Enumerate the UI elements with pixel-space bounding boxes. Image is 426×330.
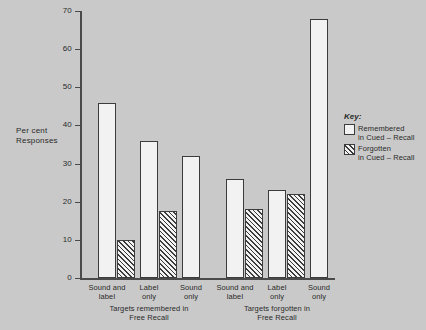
bar-g1-5-remembered [182,156,200,278]
y-tick-label-50: 50 [46,82,72,91]
plot-area [80,11,335,278]
legend-item-forgotten: Forgotten in Cued – Recall [344,144,426,162]
chart-canvas: Per cent Responses 706050403020100 Sound… [0,0,426,330]
legend-item-remembered: Remembered in Cued – Recall [344,124,426,142]
category-label: Sound and label [83,283,131,301]
y-tick-label-20: 20 [46,197,72,206]
y-tick-label-0: 0 [46,273,72,282]
bar-g2-1-remembered [226,179,244,278]
legend-swatch-remembered-icon [344,124,355,135]
legend-label-forgotten: Forgotten in Cued – Recall [358,144,415,162]
category-label: Sound only [167,283,215,301]
group-caption: Targets remembered in Free Recall [92,304,206,322]
y-tick-label-70: 70 [46,6,72,15]
legend-label-remembered: Remembered in Cued – Recall [358,124,415,142]
y-tick-label-10: 10 [46,235,72,244]
bar-g2-4-forgotten [287,194,305,278]
category-label: Sound and label [211,283,259,301]
legend-swatch-forgotten-icon [344,144,355,155]
bar-g2-2-forgotten [245,209,263,278]
legend-title: Key: [344,112,426,121]
x-axis-line [80,278,335,280]
group-caption: Targets forgotten in Free Recall [220,304,334,322]
y-tick-label-60: 60 [46,44,72,53]
legend: Key: Remembered in Cued – Recall Forgott… [344,112,426,164]
bar-g2-3-remembered [268,190,286,278]
bar-g1-4-forgotten [159,211,177,278]
y-tick-label-40: 40 [46,120,72,129]
y-tick-label-30: 30 [46,159,72,168]
category-label: Label only [253,283,301,301]
bar-g1-1-remembered [98,103,116,278]
category-label: Label only [125,283,173,301]
category-label: Sound only [295,283,343,301]
bar-g2-5-remembered [310,19,328,278]
bar-g1-2-forgotten [117,240,135,278]
bar-g1-3-remembered [140,141,158,278]
